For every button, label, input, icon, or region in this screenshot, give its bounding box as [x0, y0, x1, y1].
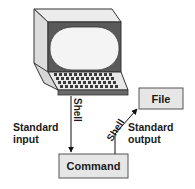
input-shell-label: Shell [72, 98, 83, 122]
shell-io-diagram: Shell Standard input Command Shell Stand… [0, 0, 195, 189]
standard-output-label: Standard output [128, 121, 176, 145]
standard-input-line2: input [13, 133, 39, 145]
terminal-icon [34, 9, 128, 95]
file-box: File [139, 88, 183, 109]
output-shell-label: Shell [104, 117, 126, 143]
command-label: Command [67, 160, 121, 172]
standard-output-line2: output [128, 133, 161, 145]
standard-input-line1: Standard [13, 121, 59, 133]
standard-output-line1: Standard [128, 121, 174, 133]
standard-input-label: Standard input [13, 121, 61, 145]
file-label: File [152, 93, 171, 105]
command-box: Command [59, 154, 128, 178]
